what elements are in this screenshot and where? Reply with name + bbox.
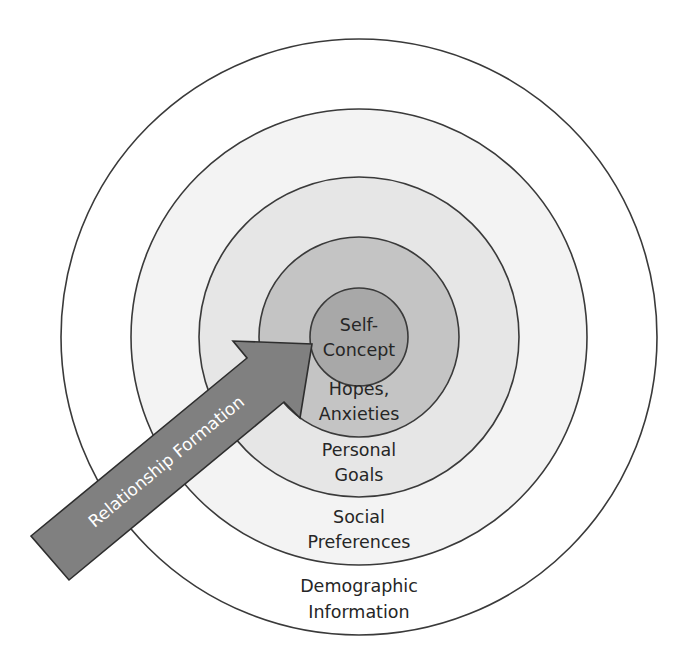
label-line: Hopes, [329, 379, 389, 399]
label-line: Preferences [308, 532, 411, 552]
label-line: Anxieties [319, 404, 400, 424]
label-line: Self- [340, 315, 378, 335]
label-line: Concept [323, 340, 396, 360]
label-line: Information [308, 602, 409, 622]
ring-self [310, 288, 408, 386]
label-line: Goals [335, 465, 384, 485]
label-line: Personal [322, 440, 396, 460]
relationship-formation-diagram: DemographicInformationSocialPreferencesP… [0, 0, 691, 672]
label-line: Social [333, 507, 385, 527]
label-line: Demographic [300, 576, 418, 596]
